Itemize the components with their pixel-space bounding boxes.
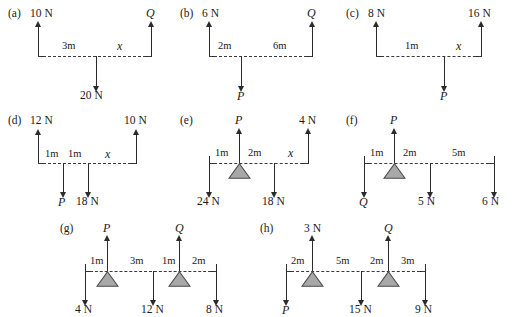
diagram-h-dim-1: 2m — [291, 256, 304, 267]
diagram-e-load-1-label: 24 N — [197, 196, 220, 208]
diagram-h-load-2-label: 15 N — [349, 304, 372, 316]
diagram-e-fulcrum-icon — [228, 163, 251, 179]
diagram-e-dim-1: 1m — [215, 148, 228, 159]
diagram-b-beam — [209, 56, 312, 57]
diagram-g-dim-3: 1m — [162, 256, 175, 267]
diagram-a-dim-2: x — [117, 40, 122, 52]
diagram-f-fulcrum-force-label: P — [390, 114, 397, 126]
diagram-c-load-label: P — [440, 90, 447, 102]
diagram-h: (h) 3 N Q 2m 5m 2m 3m P 15 N 9 N — [258, 214, 458, 317]
diagram-d-dim-2: 1m — [68, 149, 81, 160]
diagram-g-fulcrum-1-icon — [96, 271, 119, 287]
diagram-e-dim-3: x — [288, 147, 293, 159]
diagram-f-load-3-arrow — [494, 163, 495, 193]
diagram-e-load-2-arrow — [274, 163, 275, 193]
diagram-c-dim-2: x — [456, 40, 461, 52]
diagram-a: (a) 10 N Q 3m x 20 N — [0, 0, 176, 106]
diagram-g-dim-2: 3m — [130, 256, 143, 267]
diagram-f-load-1-arrow — [364, 163, 365, 193]
diagram-g-load-3-label: 8 N — [206, 304, 223, 316]
diagram-e-fulcrum-arrow — [239, 133, 240, 163]
diagram-a-load-arrow — [96, 56, 97, 87]
diagram-f-fulcrum-arrow — [394, 133, 395, 163]
diagram-g-fulcrum-2-icon — [168, 271, 191, 287]
diagram-g-load-2-arrow — [153, 271, 154, 301]
diagram-h-load-1-arrow — [286, 271, 287, 301]
diagram-e-load-2-label: 18 N — [262, 196, 285, 208]
diagram-d-load-1-label: P — [58, 196, 65, 208]
diagram-a-dim-1: 3m — [62, 41, 75, 52]
diagram-b-right-force-label: Q — [307, 7, 316, 19]
diagram-b-left-force-label: 6 N — [202, 8, 219, 20]
diagram-e-dim-2: 2m — [248, 148, 261, 159]
diagram-d-load-2-label: 18 N — [76, 196, 99, 208]
diagram-f-load-3-label: 6 N — [482, 196, 499, 208]
diagram-d-right-force-label: 10 N — [124, 115, 147, 127]
diagram-d-load-2-arrow — [88, 163, 89, 193]
diagram-e-fulcrum-force-label: P — [235, 114, 242, 126]
diagram-g-fulcrum-2-force-label: Q — [175, 222, 184, 234]
diagram-h-tag: (h) — [260, 223, 273, 235]
diagram-a-load-label: 20 N — [80, 90, 103, 102]
diagram-d-load-1-arrow — [63, 163, 64, 193]
diagram-f-fulcrum-icon — [383, 163, 406, 179]
diagram-g-load-2-label: 12 N — [141, 304, 164, 316]
diagram-g-dim-1: 1m — [90, 256, 103, 267]
diagram-f-load-1-label: Q — [359, 196, 368, 208]
diagram-g-fulcrum-2-arrow — [179, 240, 180, 271]
diagram-h-dim-3: 2m — [370, 256, 383, 267]
diagram-f-load-2-label: 5 N — [418, 196, 435, 208]
diagram-g-tag: (g) — [60, 223, 73, 235]
diagram-b-dim-1: 2m — [218, 41, 231, 52]
diagram-e-load-1-arrow — [209, 163, 210, 193]
diagram-h-load-1-label: P — [282, 304, 289, 316]
diagram-d-beam — [38, 163, 136, 164]
diagram-e-tag: (e) — [180, 115, 193, 127]
diagram-d: (d) 12 N 10 N 1m 1m x P 18 N — [0, 106, 176, 214]
diagram-b-load-label: P — [237, 90, 244, 102]
diagram-h-load-3-label: 9 N — [415, 304, 432, 316]
diagram-c-left-force-label: 8 N — [368, 8, 385, 20]
diagram-h-load-2-arrow — [361, 271, 362, 301]
diagram-b-tag: (b) — [180, 8, 193, 20]
diagram-f-load-2-arrow — [430, 163, 431, 193]
diagram-h-fulcrum-2-icon — [377, 271, 400, 287]
diagram-h-fulcrum-1-icon — [301, 271, 324, 287]
diagram-g-load-3-arrow — [216, 271, 217, 301]
diagram-c-beam — [376, 56, 481, 57]
diagram-d-tag: (d) — [8, 115, 21, 127]
diagram-h-fulcrum-2-arrow — [388, 240, 389, 271]
diagram-h-load-3-arrow — [425, 271, 426, 301]
diagram-g-dim-4: 2m — [192, 256, 205, 267]
diagram-a-beam — [38, 56, 151, 57]
diagram-c-right-force-label: 16 N — [468, 8, 491, 20]
diagram-f-dim-3: 5m — [452, 148, 465, 159]
diagram-c-tag: (c) — [346, 8, 359, 20]
diagram-g-load-1-label: 4 N — [75, 304, 92, 316]
diagram-e-right-force-label: 4 N — [299, 115, 316, 127]
diagram-d-dim-1: 1m — [45, 149, 58, 160]
diagram-d-left-force-label: 12 N — [30, 115, 53, 127]
diagram-b-load-arrow — [241, 56, 242, 87]
diagram-g-fulcrum-1-force-label: P — [103, 222, 110, 234]
diagram-h-dim-2: 5m — [336, 256, 349, 267]
diagram-c-load-arrow — [444, 56, 445, 87]
diagram-g: (g) P Q 1m 3m 1m 2m 4 N 12 N 8 N — [58, 214, 258, 317]
diagram-f-dim-1: 1m — [370, 148, 383, 159]
diagram-g-load-1-arrow — [85, 271, 86, 301]
diagram-f-tag: (f) — [346, 115, 358, 127]
diagram-h-fulcrum-1-force-label: 3 N — [304, 223, 321, 235]
diagram-g-fulcrum-1-arrow — [107, 240, 108, 271]
diagram-a-right-force-label: Q — [146, 7, 155, 19]
diagram-h-dim-4: 3m — [401, 256, 414, 267]
diagram-d-dim-3: x — [105, 148, 110, 160]
diagram-b: (b) 6 N Q 2m 6m P — [176, 0, 342, 106]
diagram-a-left-force-label: 10 N — [30, 8, 53, 20]
diagram-h-fulcrum-1-arrow — [312, 240, 313, 271]
diagram-f-dim-2: 2m — [403, 148, 416, 159]
diagram-c: (c) 8 N 16 N 1m x P — [342, 0, 516, 106]
diagram-a-tag: (a) — [8, 8, 21, 20]
diagram-f: (f) P 1m 2m 5m Q 5 N 6 N — [342, 106, 516, 214]
diagram-e: (e) P 4 N 1m 2m x 24 N 18 N — [176, 106, 342, 214]
diagram-c-dim-1: 1m — [405, 41, 418, 52]
